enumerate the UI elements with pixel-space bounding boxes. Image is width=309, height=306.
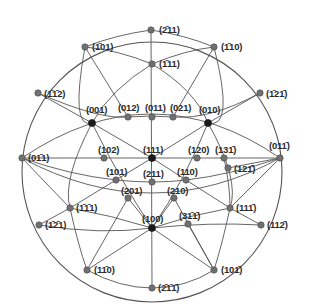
pole-label-p10m1: (101̄) bbox=[221, 265, 242, 275]
pole-label-p201: (201) bbox=[121, 186, 142, 196]
pole-label-p010: (010) bbox=[199, 105, 220, 115]
pole-marker-p120 bbox=[194, 155, 200, 161]
pole-label-p100: (100) bbox=[142, 214, 163, 224]
pole-marker-m211 bbox=[148, 27, 154, 33]
pole-marker-p021 bbox=[170, 114, 176, 120]
pole-marker-p102 bbox=[101, 155, 107, 161]
pole-label-p001: (001) bbox=[86, 105, 107, 115]
zone-line bbox=[186, 180, 230, 208]
pole-marker-pm1m21 bbox=[36, 222, 42, 228]
pole-label-m211: (2̄11) bbox=[159, 25, 180, 35]
pole-label-p210: (210) bbox=[167, 186, 188, 196]
pole-marker-m110 bbox=[211, 44, 217, 50]
pole-marker-p110 bbox=[183, 177, 189, 183]
pole-marker-p211 bbox=[149, 179, 155, 185]
pole-marker-p012 bbox=[125, 114, 131, 120]
zone-line bbox=[152, 228, 214, 270]
pole-label-p101: (101) bbox=[106, 167, 127, 177]
zone-line bbox=[188, 224, 214, 270]
pole-label-mm112: (1̄1̄2) bbox=[44, 89, 65, 99]
pole-marker-p111 bbox=[148, 154, 155, 161]
pole-marker-p10m1 bbox=[211, 267, 217, 273]
pole-marker-p1m10 bbox=[84, 267, 90, 273]
pole-marker-pm2m1m1 bbox=[149, 285, 155, 291]
pole-marker-p31m1 bbox=[185, 221, 191, 227]
pole-marker-m12m1 bbox=[257, 90, 263, 96]
pole-label-p011: (011) bbox=[145, 103, 166, 113]
pole-label-p110: (110) bbox=[177, 167, 198, 177]
pole-marker-p12m1 bbox=[225, 165, 231, 171]
pole-label-p01m1: (011̄) bbox=[269, 141, 290, 151]
stereographic-projection: (2̄11)(1̄01)(1̄10)(1̄11)(1̄1̄2)(1̄21̄)(0… bbox=[0, 0, 309, 306]
great-circle-arc bbox=[186, 158, 280, 180]
pole-label-pm2m1m1: (2̄1̄1̄) bbox=[158, 283, 179, 293]
pole-label-p31m1: (31̄1̄) bbox=[179, 211, 200, 221]
pole-marker-p101 bbox=[113, 177, 119, 183]
pole-marker-mm112 bbox=[35, 90, 41, 96]
pole-label-m101: (1̄01) bbox=[92, 42, 113, 52]
pole-label-p12m1: (121̄) bbox=[234, 164, 255, 174]
pole-marker-p100 bbox=[148, 224, 155, 231]
pole-label-p112m: (112̄) bbox=[267, 220, 288, 230]
pole-label-p211: (211) bbox=[143, 169, 164, 179]
pole-marker-p011 bbox=[149, 114, 155, 120]
pole-marker-p010 bbox=[204, 119, 211, 126]
pole-marker-p0m11 bbox=[19, 155, 25, 161]
pole-label-p0m11: (01̄1) bbox=[28, 153, 49, 163]
pole-label-pm1m21: (1̄2̄1) bbox=[45, 220, 66, 230]
pole-marker-p11m1 bbox=[227, 205, 233, 211]
pole-label-p102: (102) bbox=[98, 145, 119, 155]
pole-marker-p13m1 bbox=[221, 155, 227, 161]
pole-label-p120: (120) bbox=[188, 145, 209, 155]
pole-marker-m111 bbox=[149, 61, 155, 67]
pole-marker-p01m1 bbox=[277, 155, 283, 161]
pole-label-p012: (012) bbox=[118, 103, 139, 113]
pole-marker-pm1m11 bbox=[67, 205, 73, 211]
pole-label-m111: (1̄11) bbox=[159, 59, 180, 69]
pole-label-p11m1: (111̄) bbox=[236, 203, 256, 213]
poles bbox=[19, 27, 283, 291]
pole-label-m110: (1̄10) bbox=[221, 42, 242, 52]
pole-label-p111: (111) bbox=[143, 145, 163, 155]
pole-label-p021: (021) bbox=[170, 103, 191, 113]
pole-label-p1m10: (11̄0) bbox=[94, 265, 115, 275]
pole-label-pm1m11: (1̄1̄1) bbox=[76, 203, 97, 213]
pole-label-p13m1: (131̄) bbox=[215, 145, 236, 155]
pole-marker-p001 bbox=[88, 119, 95, 126]
pole-marker-p112m bbox=[258, 222, 264, 228]
pole-marker-m101 bbox=[82, 44, 88, 50]
pole-label-m12m1: (1̄21̄) bbox=[266, 89, 287, 99]
